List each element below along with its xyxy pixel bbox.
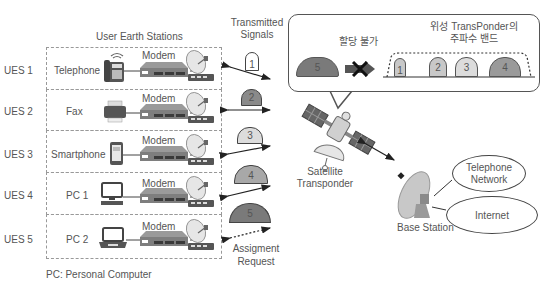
band-slot-2: 2 <box>429 57 447 77</box>
modem-icon <box>140 231 188 246</box>
band-title-line1: 위성 TransPonder의 <box>419 21 529 33</box>
blocked-arrow-icon <box>345 61 379 77</box>
footnote: PC: Personal Computer <box>46 269 152 280</box>
assignment-request-line2: Request <box>226 255 286 268</box>
modem-icon <box>140 104 188 119</box>
band-slot-4-label: 4 <box>502 62 508 73</box>
telephone-network-line2: Network <box>471 174 508 186</box>
not-assignable-label: 할당 불가 <box>339 33 378 48</box>
assignment-request-arrow <box>230 228 270 238</box>
assignment-request-line1: Assigment <box>226 242 286 255</box>
satellite-transponder-label: Satellite Transponder <box>290 166 360 190</box>
smartphone-icon <box>110 142 123 165</box>
signal-3: 3 <box>237 127 263 144</box>
modem-icon <box>140 188 188 203</box>
signal-1: 1 <box>245 52 259 71</box>
downlink-arrow <box>366 144 394 160</box>
modem-icon <box>140 62 188 77</box>
base-station-dish-icon <box>392 167 437 223</box>
internet-label: Internet <box>475 210 509 221</box>
band-slot-2-label: 2 <box>435 62 441 73</box>
signal-3-label: 3 <box>247 130 253 141</box>
telephone-network-line1: Telephone <box>466 162 512 174</box>
signal-5-label: 5 <box>247 208 253 219</box>
signal-arrow-3 <box>228 146 270 154</box>
desktop-pc-icon <box>101 183 123 205</box>
band-slot-4: 4 <box>489 57 521 77</box>
transponder-band-callout: 할당 불가 위성 TransPonder의 주파수 밴드 5 1 2 3 4 <box>288 14 540 92</box>
signal-4-label: 4 <box>248 170 254 181</box>
telephone-icon <box>104 54 124 83</box>
satellite-line2: Transponder <box>290 178 360 190</box>
signal-arrow-4 <box>228 186 270 196</box>
base-station-label: Base Station <box>397 222 454 233</box>
band-title: 위성 TransPonder의 주파수 밴드 <box>419 21 529 45</box>
assignment-request-label: Assigment Request <box>226 242 286 268</box>
band-slot-3-label: 3 <box>464 62 470 73</box>
satellite-line1: Satellite <box>290 166 360 178</box>
telephone-network-node: Telephone Network <box>452 155 526 192</box>
band-slot-3: 3 <box>455 57 478 77</box>
rejected-signal-5: 5 <box>296 57 339 77</box>
signal-2-label: 2 <box>249 92 255 103</box>
modem-icon <box>140 146 188 161</box>
band-slot-1: 1 <box>394 58 406 77</box>
band-title-line2: 주파수 밴드 <box>419 33 529 45</box>
rejected-signal-label: 5 <box>315 62 321 73</box>
signal-1-label: 1 <box>249 59 255 70</box>
signal-2: 2 <box>241 89 262 106</box>
band-slot-1-label: 1 <box>397 65 403 76</box>
laptop-icon <box>99 228 127 248</box>
internet-node: Internet <box>446 196 538 234</box>
fax-icon <box>104 101 126 122</box>
